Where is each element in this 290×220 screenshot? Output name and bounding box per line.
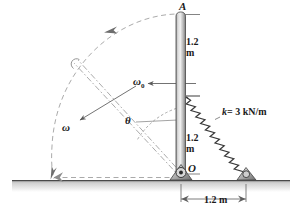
spring-anchor-support (237, 168, 256, 181)
upper-length-unit: m (186, 48, 199, 59)
spring-constant-value: = 3 kN/m (227, 106, 267, 117)
spring-label-leader (215, 117, 220, 120)
label-theta: θ (125, 115, 131, 127)
rod-OA (176, 12, 186, 180)
label-upper-length: 1.2 m (186, 37, 199, 58)
label-omega-initial: ω0 (133, 76, 144, 91)
label-lower-length: 1.2 m (186, 133, 199, 154)
label-base-dimension: 1.2 m (204, 195, 227, 206)
lower-length-unit: m (186, 144, 199, 155)
label-spring-constant: k= 3 kN/m (222, 107, 267, 118)
swing-arc-dashed (52, 14, 183, 179)
mechanics-figure: A O 1.2 m 1.2 m k= 3 kN/m ω0 ω θ 1.2 m (0, 0, 290, 220)
ground-surface (12, 180, 290, 192)
theta-angle-arc (138, 107, 182, 140)
lower-length-value: 1.2 (186, 133, 199, 144)
swing-arc-arrowhead-top (104, 27, 117, 34)
upper-length-value: 1.2 (186, 37, 199, 48)
omega-initial-symbol: ω (133, 75, 141, 87)
label-point-o: O (188, 163, 196, 175)
omega-initial-subscript: 0 (141, 82, 145, 90)
theta-leader-line (136, 117, 178, 124)
label-point-a: A (179, 1, 186, 13)
label-omega: ω (62, 122, 70, 134)
